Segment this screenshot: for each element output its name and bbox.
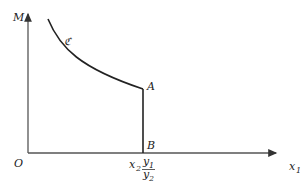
origin-label: O xyxy=(14,157,23,170)
y1-label-sub: 1 xyxy=(149,161,154,170)
x2-label-sub: 2 xyxy=(135,164,141,173)
x2-label: x xyxy=(129,158,136,171)
point-b-label: B xyxy=(146,139,155,152)
x-axis-label-sub: 1 xyxy=(296,166,301,175)
y-axis-label: M xyxy=(12,11,25,24)
x-axis-label: x xyxy=(289,160,296,173)
point-a-label: A xyxy=(146,80,155,93)
curve-label: ℭ xyxy=(64,36,73,47)
curve-c xyxy=(48,19,143,89)
diagram-canvas: M O ℭ A B x 1 x 2 y 1 y 2 xyxy=(0,0,306,188)
y2-label-sub: 2 xyxy=(148,174,154,183)
